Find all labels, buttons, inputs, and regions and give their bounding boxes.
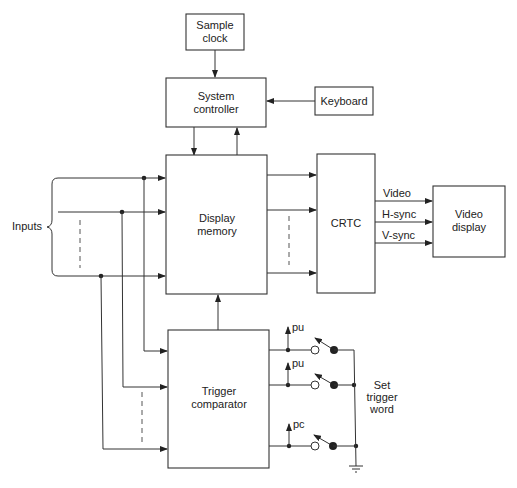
common-bus-line xyxy=(354,350,356,466)
tap-line-n xyxy=(101,276,167,449)
keyboard-label: Keyboard xyxy=(320,95,367,107)
video-display-label-2: display xyxy=(452,221,487,233)
inputs-brace xyxy=(47,178,58,276)
crtc-label: CRTC xyxy=(331,217,361,229)
switch-row-3: pc xyxy=(269,418,358,450)
switch-contact xyxy=(311,346,319,354)
sample-clock-block: Sample clock xyxy=(186,14,244,50)
switch-row-1: pu xyxy=(269,321,354,354)
switch-row-2: pu xyxy=(269,357,356,389)
set-trigger-word-label-2: trigger xyxy=(366,391,398,403)
pullup-label-2: pu xyxy=(292,357,304,369)
system-controller-label-2: controller xyxy=(193,103,239,115)
hsync-signal-label: H-sync xyxy=(382,208,417,220)
display-memory-block: Display memory xyxy=(166,155,267,294)
inputs-label: Inputs xyxy=(12,220,42,232)
sample-clock-label-2: clock xyxy=(202,32,228,44)
pullup-label-3: pc xyxy=(293,418,305,430)
set-trigger-word-label-1: Set xyxy=(374,379,391,391)
trigger-comparator-block: Trigger comparator xyxy=(168,330,269,468)
set-trigger-word-label-3: word xyxy=(369,403,394,415)
ground-icon xyxy=(349,466,363,472)
video-display-block: Video display xyxy=(433,186,505,257)
video-display-label-1: Video xyxy=(455,208,483,220)
sample-clock-label-1: Sample xyxy=(196,19,233,31)
tap-line-1 xyxy=(144,178,167,351)
vsync-signal-label: V-sync xyxy=(382,229,416,241)
logic-analyzer-block-diagram: Sample clock System controller Keyboard … xyxy=(0,0,517,488)
system-controller-label-1: System xyxy=(198,90,235,102)
system-controller-block: System controller xyxy=(166,78,266,127)
display-memory-label-2: memory xyxy=(197,225,237,237)
switch-contact xyxy=(311,442,319,450)
pullup-label-1: pu xyxy=(292,321,304,333)
trigger-comparator-label-2: comparator xyxy=(191,398,247,410)
trigger-comparator-label-1: Trigger xyxy=(202,385,237,397)
keyboard-block: Keyboard xyxy=(315,87,373,115)
video-signal-label: Video xyxy=(383,187,411,199)
crtc-block: CRTC xyxy=(317,154,375,293)
display-memory-label-1: Display xyxy=(199,212,236,224)
switch-contact xyxy=(311,381,319,389)
